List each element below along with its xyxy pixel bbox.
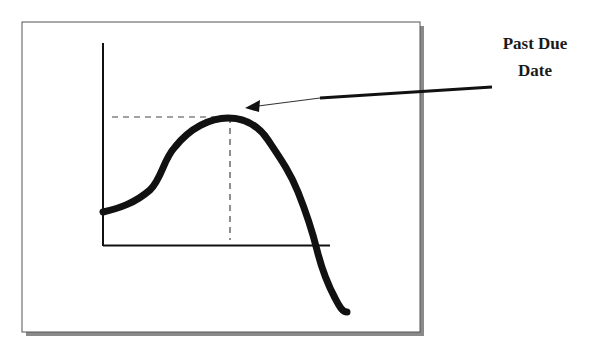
diagram-canvas: Past Due Date (0, 0, 596, 357)
past-due-date-label: Past Due Date (480, 30, 590, 84)
label-line-2: Date (480, 57, 590, 84)
label-line-1: Past Due (480, 30, 590, 57)
frame (22, 22, 420, 332)
